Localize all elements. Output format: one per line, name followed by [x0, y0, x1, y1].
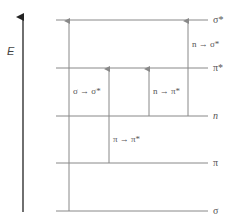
- level-pi: π: [56, 157, 218, 168]
- level-label: π*: [213, 62, 223, 73]
- level-label: n: [213, 110, 218, 121]
- level-label: σ*: [213, 14, 223, 25]
- level-sigma-star: σ*: [56, 14, 223, 25]
- level-pi-star: π*: [56, 62, 223, 73]
- transition-label: π → π*: [113, 134, 141, 144]
- level-n: n: [56, 110, 218, 121]
- transition-label: n → σ*: [192, 39, 220, 49]
- level-label: π: [213, 157, 218, 168]
- level-label: σ: [213, 205, 219, 216]
- energy-axis: E: [7, 17, 23, 212]
- transition-label: n → π*: [153, 86, 181, 96]
- energy-diagram: E σ* π* n π σ σ → σ* π →: [0, 0, 236, 223]
- level-sigma: σ: [56, 205, 219, 216]
- transition-label: σ → σ*: [73, 86, 101, 96]
- transition-n-pi-star: n → π*: [149, 69, 181, 116]
- axis-label: E: [7, 45, 15, 57]
